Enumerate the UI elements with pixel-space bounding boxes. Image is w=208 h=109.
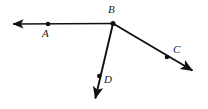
point-label-a: A: [42, 28, 49, 39]
ray-BC: [113, 24, 193, 71]
point-b-vertex-dot: [111, 21, 116, 26]
point-a-dot: [46, 22, 51, 27]
point-label-d: D: [104, 74, 112, 85]
point-label-b: B: [108, 4, 115, 15]
point-c-dot: [165, 55, 170, 60]
ray-BA: [13, 24, 113, 25]
point-label-c: C: [173, 44, 180, 55]
ray-BD: [95, 24, 113, 99]
geometry-figure: A B C D: [0, 0, 208, 109]
point-d-dot: [97, 74, 102, 79]
